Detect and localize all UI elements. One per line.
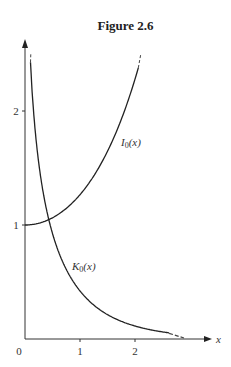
x-tick-label: 1 — [77, 345, 83, 357]
x-axis-arrow-icon — [204, 336, 212, 342]
curve-label-K0: K0(x) — [71, 260, 96, 274]
x-tick-label: 2 — [132, 345, 138, 357]
curve-I0-continuation — [138, 54, 141, 68]
y-tick-label: 2 — [13, 105, 19, 117]
x-axis-label: x — [215, 333, 221, 345]
axes — [22, 39, 212, 342]
y-tick-label: 1 — [13, 219, 19, 231]
y-axis-arrow-icon — [22, 39, 28, 48]
curves — [25, 54, 184, 338]
chart: 12012xI0(x)K0(x) — [0, 0, 231, 367]
curve-K0 — [31, 62, 170, 333]
x-tick-label: 0 — [16, 345, 22, 357]
curve-label-I0: I0(x) — [120, 136, 141, 150]
curve-K0-continuation-right — [169, 333, 184, 338]
